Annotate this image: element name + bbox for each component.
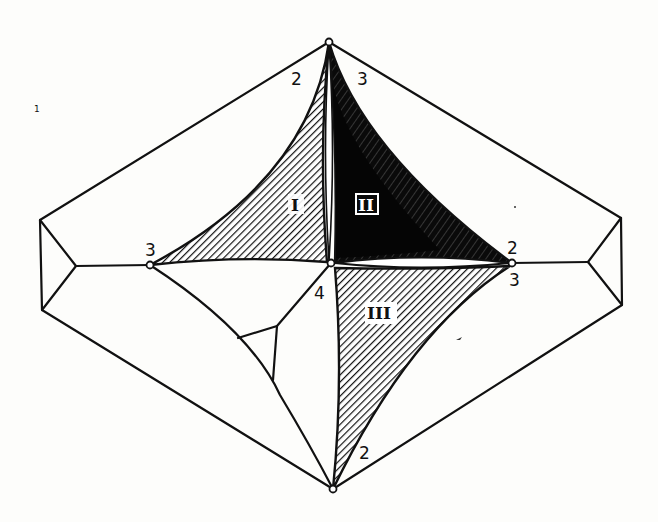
- left-junction: [40, 220, 150, 310]
- speck: [456, 337, 462, 340]
- node-right: [509, 260, 516, 267]
- vertex-label-bottom: 2: [359, 443, 370, 463]
- region-I: [150, 42, 329, 265]
- top-center-lens: [326, 44, 333, 261]
- vertex-label-left-node: 3: [145, 240, 156, 260]
- node-left: [147, 262, 154, 269]
- node-center: [328, 260, 335, 267]
- stray-mark: 1: [34, 104, 40, 114]
- vertex-label-top-right: 3: [357, 69, 368, 89]
- node-top: [326, 39, 333, 46]
- region-II-label: II: [358, 195, 374, 215]
- diagram-figure: I II III 2 3 3 2 3 4 2 1: [0, 0, 658, 522]
- speck: [514, 206, 516, 208]
- vertex-label-right-upper: 2: [507, 238, 518, 258]
- node-bottom: [330, 486, 337, 493]
- region-I-label: I: [291, 195, 299, 215]
- vertex-label-top-left: 2: [291, 69, 302, 89]
- lower-left-structure: [150, 263, 333, 489]
- vertex-label-center: 4: [314, 283, 325, 303]
- region-III-label: III: [367, 303, 391, 323]
- right-junction: [512, 218, 622, 305]
- vertex-label-right-lower: 3: [509, 270, 520, 290]
